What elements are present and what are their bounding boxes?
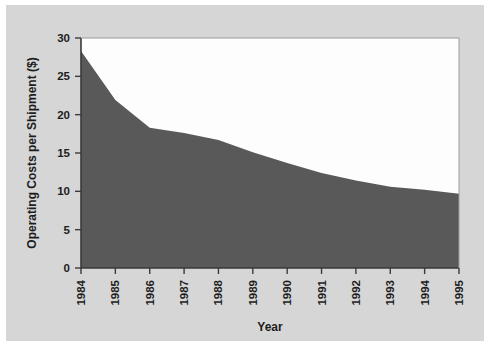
x-tick-label: 1991	[316, 279, 328, 305]
x-axis-title: Year	[257, 320, 283, 334]
figure-canvas: 051015202530 198419851986198719881989199…	[0, 0, 490, 360]
x-tick-label: 1987	[178, 280, 190, 306]
x-tick-label: 1984	[75, 279, 87, 305]
y-tick-label: 30	[57, 32, 70, 44]
x-tick-label: 1985	[109, 279, 121, 305]
x-tick-label: 1992	[350, 280, 362, 306]
x-tick-label: 1994	[419, 279, 431, 305]
area-chart: 051015202530 198419851986198719881989199…	[0, 0, 490, 360]
y-tick-layer: 051015202530	[57, 32, 81, 274]
y-tick-label: 25	[57, 70, 70, 82]
x-tick-label: 1995	[453, 279, 465, 305]
y-tick-label: 5	[64, 224, 71, 236]
y-tick-label: 0	[64, 262, 70, 274]
y-axis-title: Operating Costs per Shipment ($)	[25, 57, 39, 248]
y-tick-label: 10	[57, 185, 70, 197]
x-tick-label: 1988	[212, 279, 224, 305]
x-tick-label: 1990	[281, 280, 293, 306]
y-tick-label: 20	[57, 109, 70, 121]
x-tick-label: 1986	[144, 280, 156, 306]
y-tick-label: 15	[57, 147, 70, 159]
x-tick-label: 1989	[247, 280, 259, 306]
x-tick-label: 1993	[384, 280, 396, 306]
plot-area	[81, 38, 459, 268]
x-tick-layer: 1984198519861987198819891990199119921993…	[75, 268, 465, 306]
